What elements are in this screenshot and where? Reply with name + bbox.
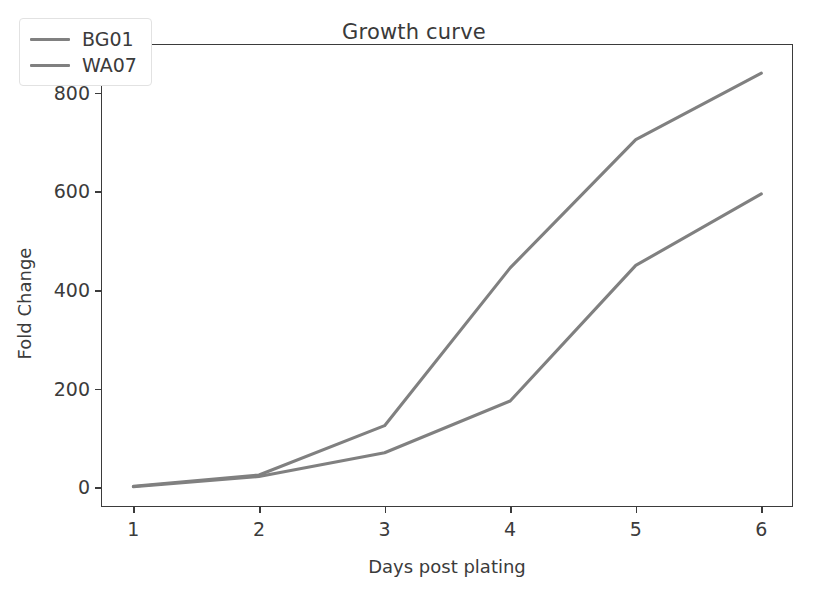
y-tick-mark <box>95 290 102 292</box>
legend-swatch-icon <box>30 38 70 41</box>
y-tick-label: 0 <box>78 476 90 498</box>
x-tick-mark <box>636 506 638 513</box>
series-lines <box>102 45 794 508</box>
x-tick-label: 2 <box>253 518 265 540</box>
x-axis-label: Days post plating <box>101 556 793 577</box>
y-tick-mark <box>95 93 102 95</box>
x-tick-label: 5 <box>630 518 642 540</box>
x-tick-label: 4 <box>504 518 516 540</box>
x-tick-mark <box>259 506 261 513</box>
y-axis-label-text: Fold Change <box>15 247 36 359</box>
y-tick-mark <box>95 191 102 193</box>
chart-legend: BG01WA07 <box>19 18 152 86</box>
y-tick-label: 400 <box>54 279 90 301</box>
legend-item-wa07: WA07 <box>30 52 137 78</box>
x-tick-mark <box>761 506 763 513</box>
y-tick-label: 200 <box>54 378 90 400</box>
y-tick-label: 600 <box>54 180 90 202</box>
legend-item-bg01: BG01 <box>30 26 137 52</box>
series-line-wa07 <box>133 194 761 487</box>
figure-canvas: Growth curve Fold Change 020040060080012… <box>0 0 828 606</box>
legend-swatch-icon <box>30 64 70 67</box>
legend-label: WA07 <box>82 56 137 75</box>
x-tick-label: 1 <box>127 518 139 540</box>
legend-label: BG01 <box>82 30 134 49</box>
plot-area: 0200400600800123456 <box>101 44 793 507</box>
y-axis-label: Fold Change <box>12 0 38 606</box>
series-line-bg01 <box>133 73 761 486</box>
y-tick-mark <box>95 389 102 391</box>
x-tick-mark <box>385 506 387 513</box>
x-tick-label: 3 <box>379 518 391 540</box>
x-tick-mark <box>510 506 512 513</box>
x-tick-label: 6 <box>755 518 767 540</box>
y-tick-mark <box>95 487 102 489</box>
x-tick-mark <box>133 506 135 513</box>
